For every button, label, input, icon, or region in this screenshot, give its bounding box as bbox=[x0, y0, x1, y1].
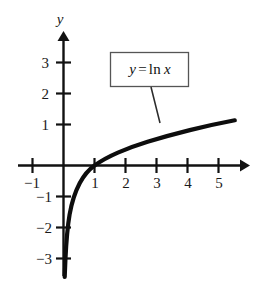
equation-lhs: y bbox=[129, 61, 136, 78]
callout-leader-line bbox=[151, 87, 160, 123]
x-tick-label-2: 2 bbox=[122, 175, 130, 191]
equation-label-text: y = ln x bbox=[110, 52, 190, 87]
y-tick-label-1: 1 bbox=[42, 117, 50, 133]
y-axis-arrowhead bbox=[58, 31, 70, 41]
y-tick-label--2: −2 bbox=[36, 220, 52, 236]
x-tick-label-5: 5 bbox=[215, 175, 223, 191]
y-axis-name-label: y bbox=[55, 11, 64, 27]
equation-argument: x bbox=[161, 61, 171, 78]
x-axis bbox=[18, 160, 250, 172]
y-tick-label-3: 3 bbox=[42, 55, 50, 71]
equation-operator: = bbox=[136, 61, 149, 78]
ln-curve bbox=[65, 120, 235, 277]
y-tick-label--1: −1 bbox=[36, 189, 52, 205]
equation-function: ln bbox=[149, 61, 161, 78]
ln-graph-figure: y −1 1 2 3 4 5 3 2 1 −1 −2 −3 y = ln x bbox=[0, 0, 256, 281]
plot-canvas: y −1 1 2 3 4 5 3 2 1 −1 −2 −3 bbox=[0, 0, 256, 281]
y-tick-label--3: −3 bbox=[36, 251, 52, 267]
x-axis-arrowhead bbox=[240, 160, 250, 172]
x-tick-label-4: 4 bbox=[184, 175, 192, 191]
y-tick-label-2: 2 bbox=[42, 86, 50, 102]
x-tick-label-1: 1 bbox=[91, 175, 99, 191]
x-tick-label-3: 3 bbox=[153, 175, 161, 191]
